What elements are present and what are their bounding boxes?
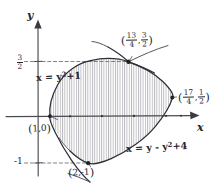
graph-figure: y x 3 2 -1 ( 13 4 , 3 2 ) ( 17 4 , 1 2 )… <box>0 0 215 186</box>
left-parabola-extension <box>129 46 169 62</box>
y-tick-label-three-halves: 3 2 <box>16 54 24 70</box>
x-axis-unit-dot <box>165 115 167 117</box>
point-label-right-vertex: ( 17 4 , 1 2 ) <box>178 88 210 105</box>
x-axis-unit-dot <box>180 115 182 117</box>
right-parabola-extension-upper <box>92 42 108 48</box>
fraction-three-halves: 3 2 <box>17 54 24 70</box>
fraction-seventeen-fourths: 17 4 <box>183 89 195 105</box>
fraction-thirteen-fourths: 13 4 <box>126 32 138 48</box>
point-label-upper-intersection: ( 13 4 , 3 2 ) <box>121 31 153 48</box>
point-label-lower-intersection: (2,-1) <box>68 167 95 179</box>
equation-label-left-parabola: x = y2+1 <box>36 71 82 83</box>
x-axis-unit-dot <box>69 115 71 117</box>
y-tick-label-negative-one: -1 <box>14 157 23 166</box>
x-axis-unit-dot <box>101 115 103 117</box>
point-dot-left-vertex <box>48 114 52 118</box>
y-axis-arrow-icon <box>34 20 41 29</box>
x-axis-unit-dot <box>133 115 135 117</box>
point-label-left-vertex: (1,0) <box>28 123 52 135</box>
x-axis-label: x <box>197 122 204 133</box>
y-axis-label: y <box>27 10 33 21</box>
x-axis-arrow-icon <box>190 112 200 120</box>
